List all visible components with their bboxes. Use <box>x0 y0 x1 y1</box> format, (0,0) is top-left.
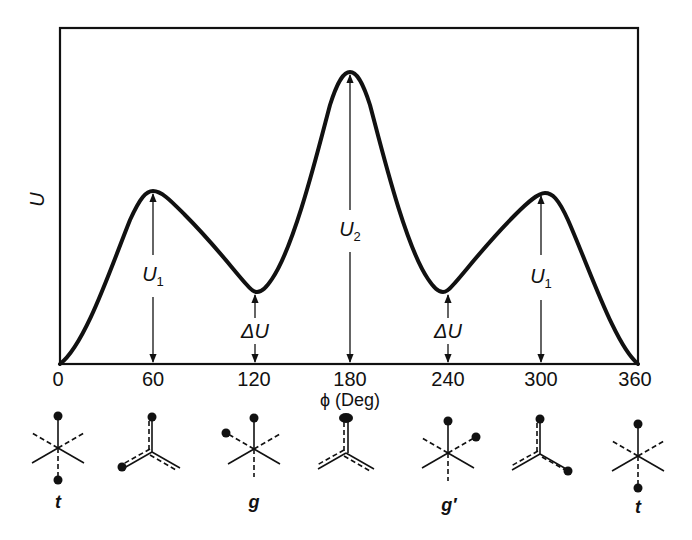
plot-svg <box>0 0 692 540</box>
newman-projection-t-0 <box>32 412 84 485</box>
conformation-label-t-0: t <box>55 492 61 513</box>
newman-projection-t-360 <box>612 420 664 493</box>
x-tick-240: 240 <box>431 368 464 391</box>
newman-projection-g-120 <box>222 414 281 478</box>
conformation-label-t-360: t <box>635 497 641 518</box>
newman-projection-eclipsed-300 <box>511 415 573 476</box>
x-tick-0: 0 <box>52 368 63 391</box>
u1-left-label: U1 <box>142 262 164 290</box>
u2-label: U2 <box>339 217 361 245</box>
du-left-label: ΔU <box>241 319 269 344</box>
conformation-label-g-prime: g′ <box>441 495 456 516</box>
du-right-label: ΔU <box>434 319 462 344</box>
newman-projection-eclipsed-180 <box>317 413 374 471</box>
x-axis-label: ϕ (Deg) <box>320 390 380 411</box>
x-tick-180: 180 <box>333 368 366 391</box>
x-tick-300: 300 <box>524 368 557 391</box>
y-axis-label: U <box>26 192 49 206</box>
conformation-label-g: g <box>249 492 260 513</box>
newman-projection-g-prime-240 <box>422 417 481 482</box>
newman-projection-eclipsed-60 <box>118 413 181 472</box>
x-tick-60: 60 <box>142 368 164 391</box>
u1-right-label: U1 <box>530 264 552 292</box>
x-tick-360: 360 <box>618 368 651 391</box>
x-tick-120: 120 <box>237 368 270 391</box>
energy-diagram: U 0 60 120 180 240 300 360 ϕ (Deg) U1 ΔU… <box>0 0 692 540</box>
